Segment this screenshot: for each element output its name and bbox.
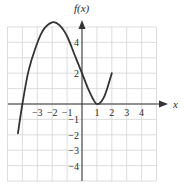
y-tick-label: 2 bbox=[74, 68, 79, 79]
y-tick-label: −4 bbox=[68, 161, 79, 172]
axes: x f(x) bbox=[8, 2, 178, 181]
y-tick-label: −2 bbox=[68, 130, 79, 141]
x-tick-label: −2 bbox=[47, 107, 58, 118]
y-axis-label: f(x) bbox=[74, 2, 90, 15]
x-tick-label: 2 bbox=[109, 107, 114, 118]
y-tick-label: −1 bbox=[68, 114, 79, 125]
y-tick-label: 4 bbox=[74, 37, 79, 48]
x-tick-label: 1 bbox=[94, 107, 99, 118]
y-axis-arrow-icon bbox=[79, 20, 86, 29]
x-axis-arrow-icon bbox=[159, 101, 168, 108]
function-graph: x f(x) −3−2−1123442−1−2−3−4 bbox=[0, 0, 184, 193]
y-tick-label: −3 bbox=[68, 145, 79, 156]
x-tick-label: −3 bbox=[32, 107, 43, 118]
x-axis-label: x bbox=[172, 98, 178, 110]
x-tick-label: 3 bbox=[124, 107, 129, 118]
x-tick-label: 4 bbox=[139, 107, 144, 118]
